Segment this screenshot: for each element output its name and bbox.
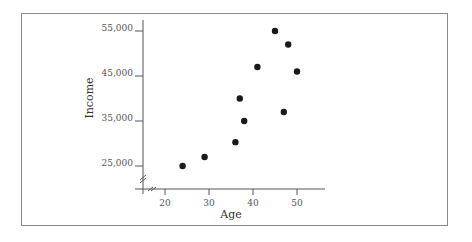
data-points (179, 28, 300, 169)
y-axis-title: Income (83, 77, 96, 118)
data-point (281, 109, 287, 115)
x-tick-label: 20 (159, 198, 171, 208)
data-point (179, 163, 185, 169)
data-point (232, 139, 238, 145)
data-point (241, 118, 247, 124)
y-tick-label: 45,000 (102, 68, 134, 78)
data-point (201, 154, 207, 160)
axes (135, 20, 325, 194)
data-point (254, 64, 260, 70)
y-tick-label: 25,000 (102, 158, 134, 168)
data-point (285, 41, 291, 47)
x-tick-label: 40 (247, 198, 259, 208)
y-tick-label: 55,000 (102, 23, 134, 33)
x-tick-label: 30 (203, 198, 215, 208)
x-tick-label: 50 (291, 198, 303, 208)
data-point (272, 28, 278, 34)
data-point (237, 95, 243, 101)
x-axis-title: Age (219, 208, 242, 221)
ticks: 2030405025,00035,00045,00055,000 (102, 23, 303, 208)
y-tick-label: 35,000 (102, 113, 134, 123)
scatter-chart: 2030405025,00035,00045,00055,000 Age Inc… (0, 0, 472, 242)
data-point (294, 68, 300, 74)
